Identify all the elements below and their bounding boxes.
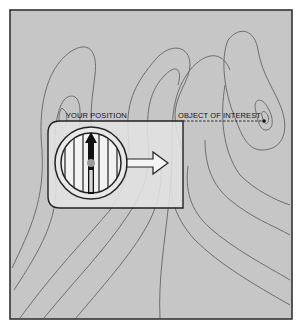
compass — [48, 120, 183, 210]
object-of-interest-label: OBJECT OF INTEREST — [178, 111, 261, 120]
topo-map-diagram — [0, 0, 302, 332]
object-of-interest-marker — [262, 119, 266, 123]
your-position-label: YOUR POSITION — [66, 111, 127, 120]
needle-pivot — [87, 159, 95, 167]
